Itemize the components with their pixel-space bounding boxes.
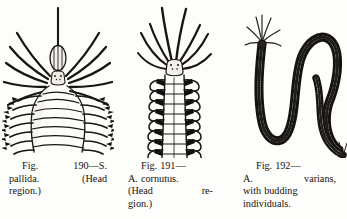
caption-191-line-4: gion.) [128, 198, 213, 211]
figure-191-caption: Fig. 191— A. cornutus. (Head re- gion.) [128, 160, 213, 210]
figure-190-caption: Fig. 190—S. pallida. (Head region.) [9, 160, 107, 198]
caption-192-line-3: with budding [243, 185, 336, 198]
caption-190-line-1: Fig. 190—S. [9, 160, 107, 173]
caption-192-line-1: Fig. 192— [243, 160, 336, 173]
figure-191-illustration [128, 0, 220, 158]
caption-190-line-2: pallida. (Head [9, 173, 107, 186]
caption-191-line-3: (Head re- [128, 185, 213, 198]
caption-190-line-3: region.) [9, 185, 107, 198]
figure-plate-page: Fig. 190—S. pallida. (Head region.) Fig.… [0, 0, 347, 219]
figure-190-illustration [2, 0, 114, 158]
figure-192-caption: Fig. 192— A. varians, with budding indiv… [243, 160, 336, 210]
caption-191-line-2: A. cornutus. [128, 173, 213, 186]
figure-192-illustration [244, 0, 347, 158]
caption-192-line-2: A. varians, [243, 173, 336, 186]
caption-191-line-1: Fig. 191— [128, 160, 213, 173]
caption-192-line-4: individuals. [243, 198, 336, 211]
